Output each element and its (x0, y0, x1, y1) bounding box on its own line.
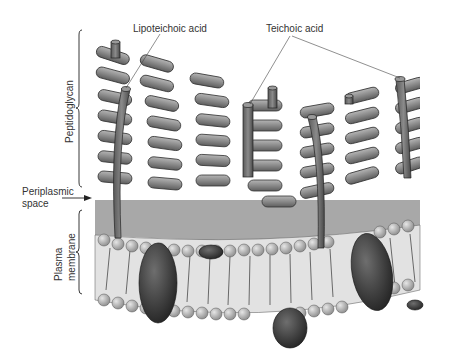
label-plasma-membrane-1: Plasma (53, 248, 64, 281)
integral-protein-1 (139, 243, 177, 323)
cell-wall-diagram (0, 0, 449, 361)
teichoic-acid-stub-2 (268, 88, 277, 108)
label-periplasmic-space-2: space (22, 198, 49, 209)
label-periplasmic-space-1: Periplasmic (22, 186, 74, 197)
brace-peptidoglycan (76, 30, 82, 187)
peptidoglycan-layer (95, 40, 426, 207)
label-lipoteichoic-acid: Lipoteichoic acid (133, 23, 207, 34)
label-plasma-membrane-2: membrane (66, 233, 77, 281)
teichoic-acid-tube-1 (243, 105, 253, 177)
teichoic-acid-stub-1 (111, 42, 120, 58)
peripheral-protein (199, 245, 223, 259)
integral-protein-2 (273, 308, 307, 348)
label-teichoic-acid: Teichoic acid (266, 23, 323, 34)
label-peptidoglycan: Peptidoglycan (64, 80, 75, 143)
integral-protein-4 (407, 300, 423, 310)
